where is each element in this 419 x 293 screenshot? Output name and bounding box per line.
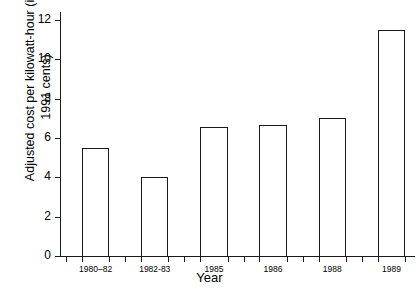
bar [82, 148, 109, 256]
plot-area: 024681012 1980–821982-831985198619881989 [60, 12, 415, 257]
y-tick-label: 8 [44, 91, 51, 106]
bar-chart: Adjusted cost per kilowatt-hour (in 1991… [0, 0, 419, 293]
y-tick: 4 [55, 177, 61, 178]
x-tick [200, 257, 201, 262]
x-tick [346, 257, 347, 262]
y-tick-label: 0 [44, 248, 51, 263]
x-tick [125, 257, 126, 262]
x-tick [259, 257, 260, 262]
x-tick [109, 257, 110, 262]
x-tick [378, 257, 379, 262]
x-tick [184, 257, 185, 262]
y-tick: 2 [55, 217, 61, 218]
y-tick: 8 [55, 99, 61, 100]
x-tick [228, 257, 229, 262]
y-tick-label: 2 [44, 209, 51, 224]
bar [141, 177, 168, 256]
y-tick: 10 [55, 59, 61, 60]
x-axis-title: Year [0, 270, 419, 286]
bar [378, 30, 405, 256]
x-tick [303, 257, 304, 262]
y-tick: 0 [55, 256, 61, 257]
bar [259, 125, 286, 256]
x-tick [66, 257, 67, 262]
y-tick: 6 [55, 138, 61, 139]
x-tick [244, 257, 245, 262]
x-tick [82, 257, 83, 262]
y-axis-line [60, 12, 61, 257]
x-tick [141, 257, 142, 262]
x-tick [168, 257, 169, 262]
y-tick-label: 10 [38, 51, 51, 66]
x-tick [287, 257, 288, 262]
bar [200, 127, 227, 256]
y-tick-label: 4 [44, 169, 51, 184]
x-tick [319, 257, 320, 262]
bar [319, 118, 346, 256]
x-tick [405, 257, 406, 262]
y-tick-label: 6 [44, 130, 51, 145]
y-tick-label: 12 [38, 12, 51, 27]
x-tick [362, 257, 363, 262]
y-tick: 12 [55, 20, 61, 21]
